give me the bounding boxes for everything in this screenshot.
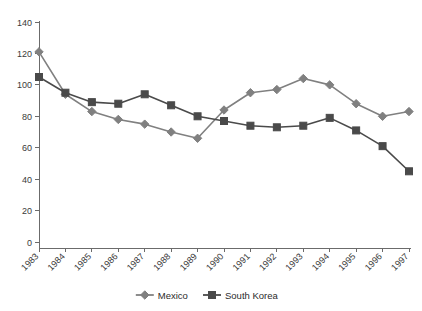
x-tick-label: 1993 — [283, 251, 304, 272]
legend-label: Mexico — [158, 290, 188, 301]
legend-label: South Korea — [225, 290, 279, 301]
data-point-marker — [247, 122, 254, 129]
data-point-marker — [141, 291, 149, 299]
data-point-marker — [221, 118, 228, 125]
data-point-marker — [194, 113, 201, 120]
data-point-marker — [273, 124, 280, 131]
x-axis: 1983198419851986198719881989199019911992… — [19, 248, 411, 273]
x-tick-label: 1996 — [363, 251, 384, 272]
data-point-marker — [35, 48, 43, 56]
y-tick-label: 40 — [22, 175, 32, 185]
x-tick-label: 1997 — [389, 251, 410, 272]
x-tick-label: 1992 — [257, 251, 278, 272]
x-tick-label: 1987 — [125, 251, 146, 272]
x-tick-label: 1989 — [178, 251, 199, 272]
x-tick-label: 1991 — [231, 251, 252, 272]
data-point-marker — [273, 85, 281, 93]
series-line — [39, 52, 409, 138]
data-point-marker — [141, 91, 148, 98]
data-point-marker — [246, 89, 254, 97]
data-point-marker — [141, 120, 149, 128]
data-point-marker — [62, 89, 69, 96]
y-tick-label: 60 — [22, 143, 32, 153]
x-tick-label: 1988 — [151, 251, 172, 272]
x-tick-label: 1984 — [46, 251, 67, 272]
data-point-marker — [378, 112, 386, 120]
x-tick-label: 1985 — [72, 251, 93, 272]
data-point-marker — [299, 74, 307, 82]
y-tick-label: 140 — [17, 18, 32, 28]
data-point-marker — [36, 74, 43, 81]
x-tick-label: 1994 — [310, 251, 331, 272]
data-point-marker — [88, 107, 96, 115]
y-tick-label: 120 — [17, 49, 32, 59]
x-tick-label: 1986 — [98, 251, 119, 272]
data-point-marker — [405, 107, 413, 115]
series-layer — [35, 48, 413, 175]
x-tick-label: 1983 — [19, 251, 40, 272]
data-point-marker — [167, 128, 175, 136]
y-tick-label: 20 — [22, 206, 32, 216]
data-point-marker — [88, 99, 95, 106]
data-point-marker — [353, 127, 360, 134]
data-point-marker — [168, 102, 175, 109]
chart-canvas: 020406080100120140 198319841985198619871… — [0, 0, 422, 311]
data-point-marker — [115, 100, 122, 107]
data-point-marker — [406, 168, 413, 175]
data-point-marker — [300, 122, 307, 129]
y-tick-label: 100 — [17, 80, 32, 90]
legend-item-south-korea[interactable]: South Korea — [203, 290, 279, 301]
data-point-marker — [379, 143, 386, 150]
x-tick-label: 1990 — [204, 251, 225, 272]
y-tick-label: 0 — [27, 238, 32, 248]
data-point-marker — [326, 114, 333, 121]
data-point-marker — [114, 115, 122, 123]
legend-item-mexico[interactable]: Mexico — [136, 290, 188, 301]
chart-legend: MexicoSouth Korea — [136, 290, 279, 301]
x-tick-label: 1995 — [336, 251, 357, 272]
y-tick-label: 80 — [22, 112, 32, 122]
data-point-marker — [209, 292, 216, 299]
line-chart: 020406080100120140 198319841985198619871… — [0, 0, 422, 311]
series-south-korea — [36, 74, 413, 175]
